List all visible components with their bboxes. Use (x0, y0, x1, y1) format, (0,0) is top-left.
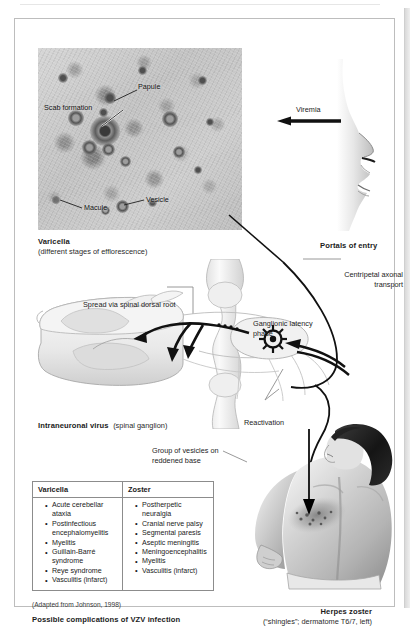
herpes-zoster-back-photo (253, 423, 405, 605)
list-item: Segmental paresis (136, 529, 209, 538)
spread-via-spinal-dorsal-root-label: Spread via spinal dorsal root (83, 300, 175, 310)
photo-label-papule: Papule (138, 82, 160, 91)
varicella-caption: Varicella (different stages of effloresc… (38, 237, 147, 257)
herpes-zoster-caption: Herpes zoster (“shingles”; dermatome T6/… (263, 607, 372, 627)
ganglionic-latency-phase-label: Ganglionic latency phase (253, 319, 313, 338)
list-item: Vasculitis (infarct) (136, 567, 209, 576)
list-item: Guillain-Barré syndrome (46, 548, 118, 567)
table-header-varicella: Varicella (33, 482, 123, 497)
zoster-complications-list: Postherpetic neuralgia Cranial nerve pal… (128, 501, 209, 576)
figure-page-frame: Papule Scab formation Macule Vesicle (14, 18, 395, 607)
viremia-label: Viremia (296, 105, 321, 115)
intraneuronal-virus-caption: Intraneuronal virus (spinal ganglion) (38, 414, 167, 432)
complications-caption: Possible complications of VZV infection (32, 615, 180, 625)
list-item: Meningoencephalitis (136, 548, 209, 557)
zoster-caption-title: Herpes zoster (263, 607, 372, 617)
list-item: Acute cerebellar ataxia (46, 501, 118, 520)
list-item: Postinfectious encephalomyelitis (46, 520, 118, 539)
list-item: Vasculitis (infarct) (46, 576, 118, 585)
zoster-caption-subtitle: (“shingles”; dermatome T6/7, left) (263, 617, 372, 627)
varicella-caption-subtitle: (different stages of efflorescence) (38, 247, 147, 257)
list-item: Postherpetic neuralgia (136, 501, 209, 520)
centripetal-axonal-transport-label: Centripetal axonal transport (325, 270, 403, 289)
intraneuronal-caption-title: Intraneuronal virus (38, 421, 109, 430)
list-item: Cranial nerve palsy (136, 520, 209, 529)
table-cell-varicella: Acute cerebellar ataxia Postinfectious e… (33, 498, 123, 590)
complications-table: Varicella Zoster Acute cerebellar ataxia… (32, 481, 214, 591)
list-item: Myelitis (46, 539, 118, 548)
varicella-complications-list: Acute cerebellar ataxia Postinfectious e… (38, 501, 118, 586)
intraneuronal-caption-subtitle: (spinal ganglion) (113, 421, 167, 430)
portals-of-entry-caption: Portals of entry (320, 241, 377, 251)
table-body: Acute cerebellar ataxia Postinfectious e… (33, 498, 213, 590)
varicella-caption-title: Varicella (38, 237, 147, 247)
top-hairline-divider (20, 4, 380, 5)
list-item: Reye syndrome (46, 567, 118, 576)
table-source-note: (Adapted from Johnson, 1998) (32, 601, 121, 608)
photo-label-scab-formation: Scab formation (44, 103, 92, 112)
photo-leader-lines (38, 48, 242, 230)
face-profile-illustration (337, 59, 395, 231)
group-of-vesicles-label: Group of vesicles on reddened base (152, 446, 240, 465)
table-header-zoster: Zoster (123, 482, 213, 497)
list-item: Aseptic meningitis (136, 539, 209, 548)
list-item: Myelitis (136, 557, 209, 566)
photo-label-vesicle: Vesicle (146, 195, 169, 204)
photo-label-macule: Macule (84, 203, 107, 212)
spinal-cord-ganglion-diagram (33, 259, 363, 429)
varicella-skin-photo: Papule Scab formation Macule Vesicle (38, 48, 242, 230)
table-cell-zoster: Postherpetic neuralgia Cranial nerve pal… (123, 498, 213, 590)
table-header-row: Varicella Zoster (33, 482, 213, 498)
